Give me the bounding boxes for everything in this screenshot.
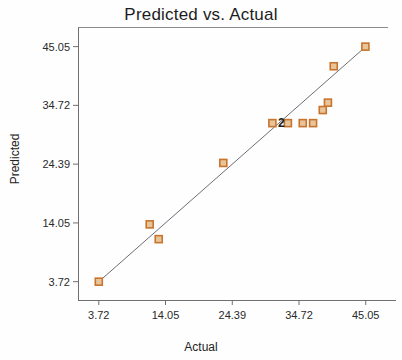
data-point-marker: [146, 221, 153, 228]
x-tick-label: 34.72: [285, 309, 313, 321]
data-point-marker: [362, 43, 369, 50]
x-axis-title: Actual: [0, 340, 402, 354]
data-point-marker: [330, 63, 337, 70]
reference-line: [99, 47, 366, 282]
data-point-marker: [310, 120, 317, 127]
data-point-marker: [299, 120, 306, 127]
data-point-marker: [269, 120, 276, 127]
data-point-marker: [95, 278, 102, 285]
plot-graphics: [0, 0, 402, 360]
y-tick-label: 3.72: [18, 276, 70, 288]
y-tick-label: 24.39: [18, 158, 70, 170]
data-point-marker: [284, 120, 291, 127]
y-tick-label: 14.05: [18, 217, 70, 229]
x-tick-label: 14.05: [152, 309, 180, 321]
x-tick-label: 24.39: [219, 309, 247, 321]
chart-canvas: Predicted vs. Actual 3.7214.0524.3934.72…: [0, 0, 402, 360]
data-point-marker: [155, 236, 162, 243]
overlap-count-label: 2: [278, 116, 285, 130]
y-tick-label: 45.05: [18, 41, 70, 53]
data-point-marker: [324, 99, 331, 106]
x-tick-label: 45.05: [352, 309, 380, 321]
x-tick-label: 3.72: [88, 309, 109, 321]
data-point-marker: [319, 107, 326, 114]
data-point-marker: [220, 159, 227, 166]
y-axis-title: Predicted: [8, 114, 22, 204]
y-tick-label: 34.72: [18, 99, 70, 111]
